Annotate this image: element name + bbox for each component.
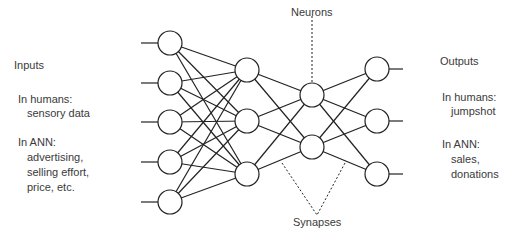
input-neuron xyxy=(158,31,182,55)
synapse xyxy=(170,70,247,202)
neurons-label: Neurons xyxy=(291,5,333,19)
hidden1-neuron xyxy=(235,58,259,82)
outputs-humans-value: jumpshot xyxy=(451,104,496,118)
inputs-humans-label: In humans: xyxy=(18,92,72,106)
inputs-ann-value: advertising, xyxy=(27,150,83,164)
hidden2-neuron xyxy=(300,83,324,107)
outputs-title: Outputs xyxy=(440,54,479,68)
outputs-humans-label: In humans: xyxy=(442,90,496,104)
annotation-pointers xyxy=(282,16,345,215)
inputs-ann-label: In ANN: xyxy=(18,135,56,149)
neuron-nodes xyxy=(158,31,389,214)
synapses-label: Synapses xyxy=(293,215,341,229)
hidden2-neuron xyxy=(300,135,324,159)
synapse xyxy=(170,121,247,162)
input-neuron xyxy=(158,150,182,174)
output-neuron xyxy=(365,109,389,133)
hidden1-neuron xyxy=(235,109,259,133)
inputs-humans-value: sensory data xyxy=(27,106,90,120)
outputs-ann-label: In ANN: xyxy=(442,137,480,151)
inputs-title: Inputs xyxy=(14,58,44,72)
output-neuron xyxy=(365,57,389,81)
outputs-ann-value: donations xyxy=(451,167,499,181)
hidden1-neuron xyxy=(235,162,259,186)
inputs-ann-value: price, etc. xyxy=(27,180,75,194)
input-neuron xyxy=(158,71,182,95)
output-neuron xyxy=(365,162,389,186)
outputs-ann-value: sales, xyxy=(451,152,480,166)
neural-network-diagram xyxy=(0,0,512,243)
input-neuron xyxy=(158,110,182,134)
input-neuron xyxy=(158,190,182,214)
synapse-edges xyxy=(170,43,377,202)
synapse xyxy=(247,95,312,174)
inputs-ann-value: selling effort, xyxy=(27,165,89,179)
